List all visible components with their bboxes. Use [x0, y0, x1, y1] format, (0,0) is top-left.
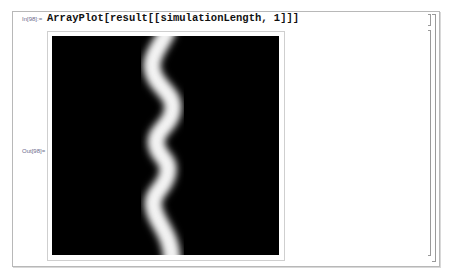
array-plot[interactable] — [52, 36, 279, 255]
output-cell-bracket[interactable] — [428, 30, 431, 256]
output-cell-label: Out[98]= — [22, 148, 45, 154]
input-cell-label: In[98]:= — [22, 16, 42, 22]
cell-group-bracket[interactable] — [432, 14, 436, 262]
array-plot-image — [52, 36, 279, 255]
input-cell-bracket[interactable] — [428, 14, 431, 26]
input-cell-code[interactable]: ArrayPlot[result[[simulationLength, 1]]] — [47, 12, 299, 24]
